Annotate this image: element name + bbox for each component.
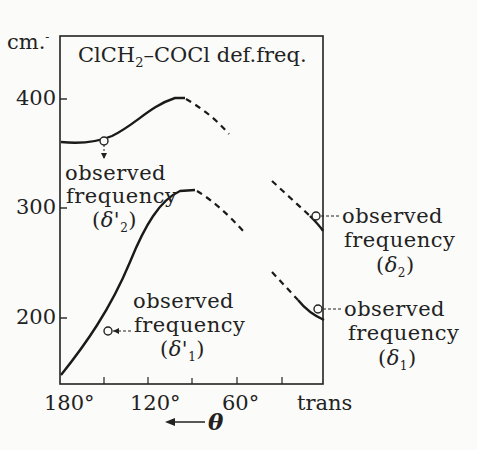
annotation-delta1-symbol: (δ1) bbox=[378, 348, 417, 372]
observed-point-delta2-prime bbox=[100, 137, 108, 145]
annotation-delta1-prime-line1: observed bbox=[133, 291, 234, 312]
observed-point-delta1 bbox=[314, 305, 322, 313]
curve-delta1-prime-dashed bbox=[197, 191, 244, 232]
y-tick-label-300: 300 bbox=[16, 197, 56, 218]
annotation-delta2-prime-symbol: (δ'2) bbox=[92, 210, 137, 234]
curve-delta2-prime-dashed bbox=[186, 99, 229, 134]
annotation-delta1-line1: observed bbox=[344, 299, 445, 320]
annotation-delta2-prime-line2: frequency bbox=[66, 186, 177, 207]
annotation-delta1-prime-line2: frequency bbox=[134, 315, 245, 336]
curve-delta1-dashed bbox=[272, 272, 298, 300]
x-tick-label-120: 120° bbox=[130, 393, 181, 414]
annotation-delta1-line2: frequency bbox=[348, 323, 459, 344]
annotation-delta2-symbol: (δ2) bbox=[376, 255, 415, 279]
arrow-delta1-prime bbox=[113, 328, 119, 334]
x-axis-label: θ bbox=[208, 410, 223, 433]
observed-point-delta1-prime bbox=[104, 327, 112, 335]
annotation-delta1-prime-symbol: (δ'1) bbox=[160, 339, 205, 363]
curve-delta2-prime-solid bbox=[61, 98, 185, 143]
chart-title: ClCH2–COCl def.freq. bbox=[78, 45, 307, 69]
observed-point-delta2 bbox=[312, 212, 320, 220]
annotation-delta2-prime-line1: observed bbox=[65, 163, 166, 184]
x-tick-label-180: 180° bbox=[44, 393, 95, 414]
annotation-delta2-line2: frequency bbox=[344, 230, 455, 251]
x-tick-label-trans: trans bbox=[297, 393, 352, 414]
y-tick-label-200: 200 bbox=[16, 307, 56, 328]
y-axis-unit: cm.- bbox=[7, 31, 49, 53]
y-tick-label-400: 400 bbox=[16, 88, 56, 109]
annotation-delta2-line1: observed bbox=[342, 206, 443, 227]
curve-delta2-dashed bbox=[272, 181, 310, 216]
x-tick-label-60: 60° bbox=[222, 393, 259, 414]
arrow-delta2-prime bbox=[101, 153, 107, 159]
theta-arrow-head bbox=[165, 418, 175, 426]
